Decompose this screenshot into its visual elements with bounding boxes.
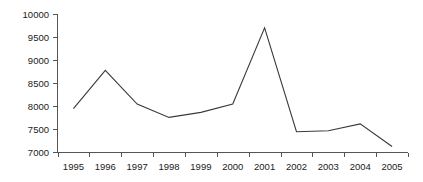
y-tick-label: 9500 [28, 32, 49, 43]
line-chart: 10000 9500 9000 8500 8000 7500 7000 1995… [0, 0, 423, 182]
chart-background [0, 0, 423, 182]
x-tick-label: 2000 [222, 161, 243, 172]
x-tick-label: 1995 [63, 161, 84, 172]
x-tick-label: 1999 [190, 161, 211, 172]
x-tick-label: 1996 [95, 161, 116, 172]
y-tick-label: 10000 [23, 9, 49, 20]
y-tick-label: 7500 [28, 124, 49, 135]
x-tick-label: 2002 [286, 161, 307, 172]
y-tick-label: 9000 [28, 55, 49, 66]
x-tick-label: 2003 [318, 161, 339, 172]
x-tick-label: 2005 [381, 161, 402, 172]
x-tick-labels: 1995199619971998199920002001200220032004… [63, 161, 403, 172]
x-tick-label: 2001 [254, 161, 275, 172]
chart-canvas: 10000 9500 9000 8500 8000 7500 7000 1995… [0, 0, 423, 182]
x-tick-label: 1998 [158, 161, 179, 172]
y-tick-label: 8000 [28, 101, 49, 112]
x-tick-label: 1997 [127, 161, 148, 172]
y-tick-label: 8500 [28, 78, 49, 89]
x-tick-label: 2004 [350, 161, 371, 172]
y-tick-label: 7000 [28, 147, 49, 158]
